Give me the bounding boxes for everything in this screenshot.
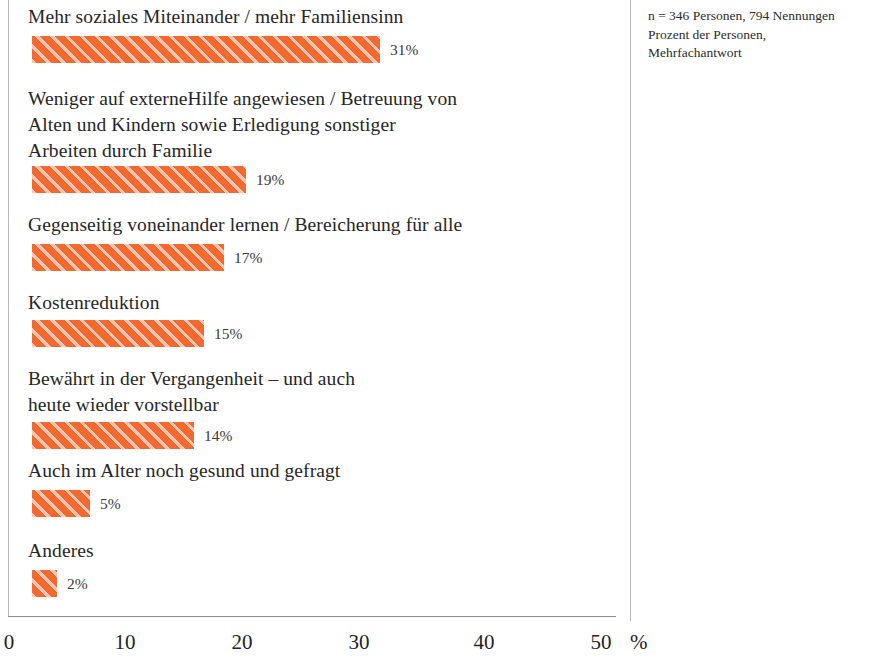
chart-page: Mehr soziales Miteinander / mehr Familie… bbox=[0, 0, 895, 665]
bar-row: Kostenreduktion 15% bbox=[0, 290, 630, 366]
bar[interactable] bbox=[32, 570, 57, 597]
bar-row: Bewährt in der Vergangenheit – und auch … bbox=[0, 366, 630, 466]
x-tick-30: 30 bbox=[329, 630, 389, 655]
bar-row: Anderes 2% bbox=[0, 544, 630, 617]
bar-container: 15% bbox=[32, 320, 632, 347]
bar-container: 17% bbox=[32, 244, 632, 271]
bar-container: 14% bbox=[32, 422, 632, 449]
bar-value-label: 19% bbox=[256, 171, 284, 189]
bar-value-label: 17% bbox=[234, 249, 262, 267]
note-line-1: n = 346 Personen, 794 Nennungen bbox=[648, 7, 888, 26]
bar[interactable] bbox=[32, 36, 380, 63]
bar-value-label: 5% bbox=[100, 495, 121, 513]
bar[interactable] bbox=[32, 166, 246, 193]
bar-row: Auch im Alter noch gesund und gefragt 5% bbox=[0, 466, 630, 544]
category-label: Kostenreduktion bbox=[28, 290, 159, 316]
bar-container: 2% bbox=[32, 570, 632, 597]
bar-container: 19% bbox=[32, 166, 632, 193]
bar-chart-plot: Mehr soziales Miteinander / mehr Familie… bbox=[0, 0, 630, 617]
bar-row: Weniger auf externeHilfe angewiesen / Be… bbox=[0, 82, 630, 212]
bar-value-label: 14% bbox=[204, 427, 232, 445]
bar[interactable] bbox=[32, 320, 204, 347]
x-tick-20: 20 bbox=[212, 630, 272, 655]
x-tick-10: 10 bbox=[95, 630, 155, 655]
bar-row: Mehr soziales Miteinander / mehr Familie… bbox=[0, 0, 630, 82]
bar-value-label: 2% bbox=[67, 575, 88, 593]
x-axis-unit-label: % bbox=[630, 630, 648, 655]
category-label: Gegenseitig voneinander lernen / Bereich… bbox=[28, 212, 462, 238]
bar-value-label: 31% bbox=[390, 41, 418, 59]
x-tick-50: 50 bbox=[571, 630, 631, 655]
x-tick-0: 0 bbox=[0, 630, 39, 655]
category-label: Weniger auf externeHilfe angewiesen / Be… bbox=[28, 86, 457, 164]
category-label: Mehr soziales Miteinander / mehr Familie… bbox=[28, 4, 403, 30]
sample-size-note: n = 346 Personen, 794 Nennungen Prozent … bbox=[648, 7, 888, 63]
bar[interactable] bbox=[32, 490, 90, 517]
category-label: Bewährt in der Vergangenheit – und auch … bbox=[28, 366, 355, 418]
bar-container: 5% bbox=[32, 490, 632, 517]
bar-container: 31% bbox=[32, 36, 632, 63]
panel-divider bbox=[630, 0, 631, 621]
bar[interactable] bbox=[32, 422, 194, 449]
bar-row: Gegenseitig voneinander lernen / Bereich… bbox=[0, 212, 630, 290]
note-line-2: Prozent der Personen, bbox=[648, 26, 888, 45]
note-line-3: Mehrfachantwort bbox=[648, 44, 888, 63]
bar-value-label: 15% bbox=[214, 325, 242, 343]
x-tick-40: 40 bbox=[454, 630, 514, 655]
category-label: Auch im Alter noch gesund und gefragt bbox=[28, 458, 340, 484]
bar[interactable] bbox=[32, 244, 224, 271]
category-label: Anderes bbox=[28, 538, 94, 564]
